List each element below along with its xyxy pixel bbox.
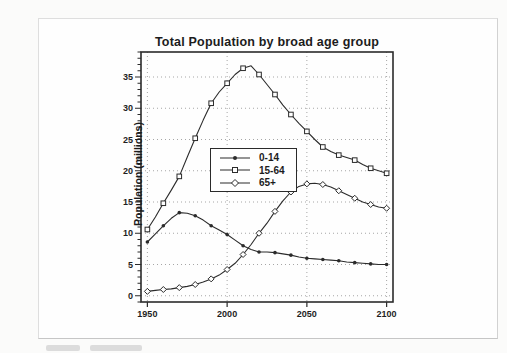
legend-label: 15-64 xyxy=(259,165,285,176)
marker-circle xyxy=(353,261,357,265)
y-tick-label: 0 xyxy=(107,291,133,301)
legend-item-0-14: 0-14 xyxy=(218,152,296,164)
marker-diamond xyxy=(352,195,358,201)
marker-square xyxy=(321,145,326,150)
marker-square xyxy=(273,92,278,97)
square-marker-line-icon xyxy=(218,165,252,175)
clipped-caption-fragment xyxy=(46,345,176,353)
marker-circle xyxy=(162,224,166,228)
marker-circle xyxy=(273,251,277,255)
y-tick-label: 5 xyxy=(107,260,133,270)
y-axis-title: Population (millions) xyxy=(132,99,146,249)
marker-square xyxy=(225,81,230,86)
marker-circle xyxy=(337,259,341,263)
marker-square xyxy=(336,153,341,158)
marker-square xyxy=(305,129,310,134)
marker-circle xyxy=(177,211,181,215)
marker-diamond xyxy=(320,182,326,188)
y-tick-label: 35 xyxy=(107,72,133,82)
legend-label: 65+ xyxy=(259,177,276,188)
marker-diamond xyxy=(384,205,390,211)
caption-smudge xyxy=(46,345,80,351)
y-tick-label: 20 xyxy=(107,166,133,176)
marker-square xyxy=(257,72,262,77)
circle-marker-line-icon xyxy=(218,153,252,163)
marker-diamond xyxy=(336,188,342,194)
marker-square xyxy=(289,112,294,117)
x-tick-label: 2100 xyxy=(367,309,407,319)
x-tick-label: 2000 xyxy=(207,309,247,319)
marker-square xyxy=(368,166,373,171)
population-chart: Total Population by broad age group Popu… xyxy=(0,0,507,353)
marker-circle xyxy=(385,263,389,267)
x-tick-label: 1950 xyxy=(127,309,167,319)
marker-square xyxy=(161,201,166,206)
marker-circle xyxy=(289,253,293,257)
marker-square xyxy=(209,101,214,106)
marker-circle xyxy=(305,256,309,260)
y-tick-label: 15 xyxy=(107,197,133,207)
legend-item-15-64: 15-64 xyxy=(218,164,296,176)
caption-smudge xyxy=(90,345,142,351)
x-tick-label: 2050 xyxy=(287,309,327,319)
y-tick-label: 25 xyxy=(107,135,133,145)
y-tick-label: 30 xyxy=(107,103,133,113)
marker-square xyxy=(177,174,182,179)
marker-diamond xyxy=(144,288,150,294)
marker-circle xyxy=(321,258,325,262)
marker-circle xyxy=(209,224,213,228)
legend-label: 0-14 xyxy=(259,152,279,163)
marker-diamond xyxy=(368,202,374,208)
marker-circle xyxy=(369,262,373,266)
legend-item-65plus: 65+ xyxy=(218,177,296,189)
marker-square xyxy=(193,136,198,141)
marker-diamond xyxy=(304,181,310,187)
marker-diamond xyxy=(208,276,214,282)
chart-title: Total Population by broad age group xyxy=(131,35,403,49)
marker-diamond xyxy=(176,285,182,291)
y-tick-label: 10 xyxy=(107,228,133,238)
marker-diamond xyxy=(160,287,166,293)
series-line-0-14 xyxy=(147,213,386,265)
marker-square xyxy=(352,158,357,163)
legend: 0-14 15-64 65+ xyxy=(210,148,297,192)
marker-circle xyxy=(241,244,245,248)
series-line-65+ xyxy=(147,183,386,291)
marker-circle xyxy=(257,250,261,254)
diamond-marker-line-icon xyxy=(218,178,252,188)
marker-circle xyxy=(146,240,150,244)
marker-square xyxy=(384,171,389,176)
marker-diamond xyxy=(192,282,198,288)
marker-circle xyxy=(225,233,229,237)
marker-circle xyxy=(193,214,197,218)
marker-square xyxy=(241,66,246,71)
